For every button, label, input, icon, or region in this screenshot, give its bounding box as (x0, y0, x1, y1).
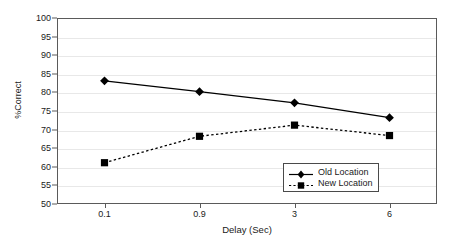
y-axis-tick-label: 75 (17, 106, 51, 116)
y-axis-tick-label: 85 (17, 69, 51, 79)
legend-item-new-location: New Location (288, 177, 373, 188)
y-axis-tick-labels: 50556065707580859095100 (0, 0, 57, 239)
gridlines (58, 19, 436, 203)
y-axis-tick-label: 65 (17, 143, 51, 153)
x-axis-tick-mark (295, 204, 296, 208)
y-axis-tick-label: 95 (17, 32, 51, 42)
y-axis-tick-label: 70 (17, 125, 51, 135)
x-axis-tick-mark (390, 204, 391, 208)
plot-area (57, 18, 437, 204)
x-axis-tick-label: 0.9 (175, 209, 225, 219)
x-axis-tick-mark (200, 204, 201, 208)
y-axis-tick-label: 60 (17, 162, 51, 172)
gridline (58, 93, 436, 94)
y-axis-tick-label: 90 (17, 50, 51, 60)
y-axis-tick-label: 100 (17, 13, 51, 23)
x-axis-tick-labels: 0.10.936 (0, 206, 452, 226)
legend-swatch-square-dashed (288, 177, 314, 188)
chart-legend: Old Location New Location (283, 163, 379, 192)
gridline (58, 38, 436, 39)
gridline (58, 56, 436, 57)
x-axis-title: Delay (Sec) (57, 224, 437, 235)
legend-label-old-location: Old Location (314, 167, 369, 177)
chart-container: %Correct 50556065707580859095100 0.10.93… (0, 0, 452, 239)
gridline (58, 112, 436, 113)
legend-swatch-diamond-solid (288, 166, 314, 177)
x-axis-tick-label: 0.1 (80, 209, 130, 219)
x-axis-tick-label: 6 (365, 209, 415, 219)
x-axis-tick-mark (105, 204, 106, 208)
gridline (58, 75, 436, 76)
x-axis-tick-label: 3 (270, 209, 320, 219)
y-axis-tick-label: 55 (17, 180, 51, 190)
gridline (58, 149, 436, 150)
gridline (58, 131, 436, 132)
legend-item-old-location: Old Location (288, 166, 373, 177)
y-axis-tick-label: 80 (17, 87, 51, 97)
gridline (58, 168, 436, 169)
gridline (58, 186, 436, 187)
legend-label-new-location: New Location (314, 178, 373, 188)
